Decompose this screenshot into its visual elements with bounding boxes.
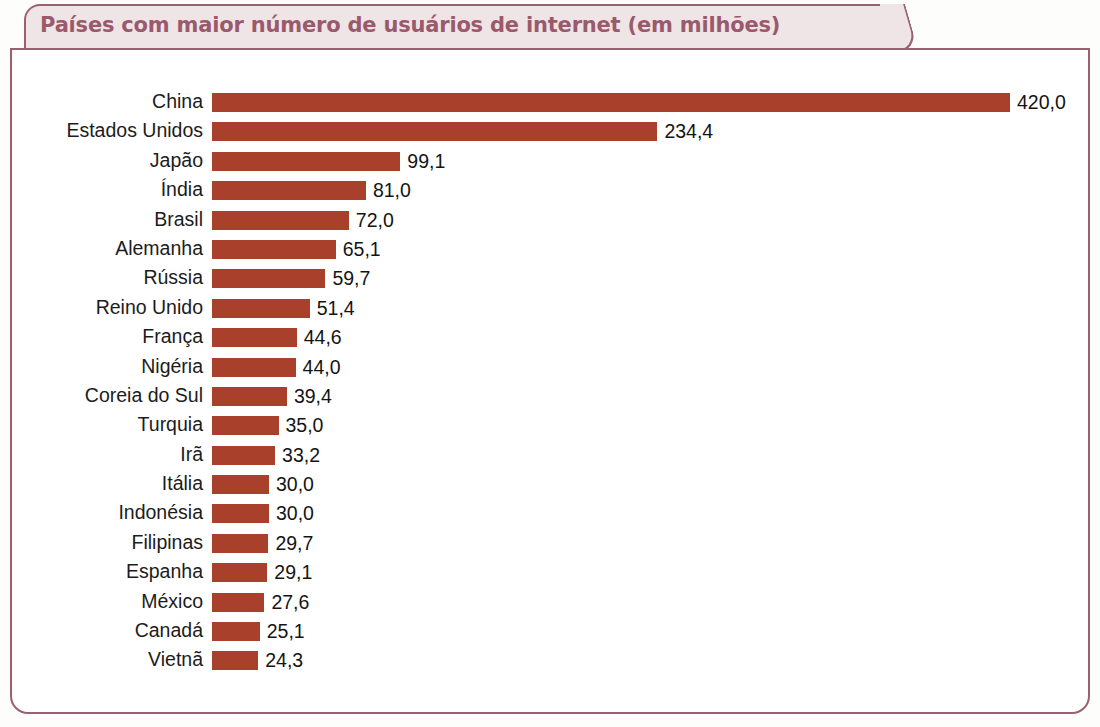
bar-group: 24,3 [212,651,303,670]
bar [212,387,287,406]
bar-value-label: 234,4 [664,121,713,142]
bar-value-label: 30,0 [276,474,314,495]
bar-value-label: 72,0 [356,210,394,231]
bar [212,152,400,171]
bar-group: 29,1 [212,563,312,582]
bar-row: Canadá25,1 [0,619,1100,648]
bar-row: França44,6 [0,325,1100,354]
bar-value-label: 39,4 [294,386,332,407]
bar [212,416,279,435]
bar-group: 420,0 [212,93,1066,112]
bar-group: 30,0 [212,504,314,523]
bar [212,563,267,582]
bar-value-label: 30,0 [276,503,314,524]
bar-value-label: 59,7 [332,268,370,289]
bar-chart-plot: China420,0Estados Unidos234,4Japão99,1Ín… [0,90,1100,678]
bar-value-label: 29,7 [275,533,313,554]
bar [212,446,275,465]
bar-category-label: Indonésia [0,502,203,523]
bar-group: 33,2 [212,446,320,465]
bar [212,240,336,259]
bar-group: 39,4 [212,387,332,406]
bar-row: Irã33,2 [0,443,1100,472]
bar-row: Coreia do Sul39,4 [0,384,1100,413]
bar-category-label: Estados Unidos [0,120,203,141]
bar-group: 30,0 [212,475,314,494]
bar-row: Espanha29,1 [0,560,1100,589]
bar-group: 25,1 [212,622,305,641]
bar-value-label: 65,1 [343,239,381,260]
bar [212,328,297,347]
bar-group: 59,7 [212,269,370,288]
bar [212,299,310,318]
bar-category-label: China [0,91,203,112]
bar-category-label: Canadá [0,620,203,641]
bar-row: Reino Unido51,4 [0,296,1100,325]
bar-group: 99,1 [212,152,445,171]
bar [212,534,268,553]
bar [212,622,260,641]
bar-group: 35,0 [212,416,323,435]
bar-category-label: Turquia [0,414,203,435]
bar [212,593,264,612]
bar-row: Índia81,0 [0,178,1100,207]
bar-value-label: 44,0 [303,357,341,378]
bar-group: 51,4 [212,299,355,318]
bar-category-label: Japão [0,150,203,171]
bar-category-label: Coreia do Sul [0,385,203,406]
chart-figure: Países com maior número de usuários de i… [0,0,1100,727]
bar-category-label: Alemanha [0,238,203,259]
bar [212,181,366,200]
bar-category-label: Itália [0,473,203,494]
bar-category-label: Nigéria [0,356,203,377]
bar-row: Estados Unidos234,4 [0,119,1100,148]
bar-category-label: Filipinas [0,532,203,553]
bar-value-label: 44,6 [304,327,342,348]
bar-row: Japão99,1 [0,149,1100,178]
bar-value-label: 81,0 [373,180,411,201]
bar-row: Itália30,0 [0,472,1100,501]
bar-row: Rússia59,7 [0,266,1100,295]
bar [212,651,258,670]
bar-value-label: 24,3 [265,650,303,671]
bar-value-label: 420,0 [1017,92,1066,113]
bar [212,269,325,288]
bar-value-label: 25,1 [267,621,305,642]
bar-row: Filipinas29,7 [0,531,1100,560]
bar-category-label: Rússia [0,267,203,288]
bar-group: 72,0 [212,211,394,230]
bar [212,475,269,494]
bar-group: 27,6 [212,593,309,612]
bar-value-label: 29,1 [274,562,312,583]
bar-group: 81,0 [212,181,411,200]
bar-group: 44,0 [212,358,341,377]
bar-row: Indonésia30,0 [0,501,1100,530]
bar-value-label: 27,6 [271,592,309,613]
bar [212,211,349,230]
bar-row: Brasil72,0 [0,208,1100,237]
bar-row: Alemanha65,1 [0,237,1100,266]
bar-row: México27,6 [0,590,1100,619]
bar-row: Nigéria44,0 [0,355,1100,384]
bar-value-label: 51,4 [317,298,355,319]
bar [212,122,657,141]
bar [212,93,1010,112]
bar-category-label: Irã [0,444,203,465]
bar-value-label: 35,0 [286,415,324,436]
bar-category-label: México [0,591,203,612]
chart-frame-top-stub [10,48,26,50]
bar-row: Turquia35,0 [0,413,1100,442]
bar-category-label: Reino Unido [0,297,203,318]
bar [212,358,296,377]
bar-value-label: 99,1 [407,151,445,172]
bar-category-label: Brasil [0,209,203,230]
bar-group: 65,1 [212,240,381,259]
bar-category-label: Índia [0,179,203,200]
chart-title-tab-corner [880,4,926,50]
bar [212,504,269,523]
bar-category-label: França [0,326,203,347]
bar-category-label: Espanha [0,561,203,582]
bar-category-label: Vietnã [0,649,203,670]
bar-row: China420,0 [0,90,1100,119]
chart-title: Países com maior número de usuários de i… [40,13,780,37]
